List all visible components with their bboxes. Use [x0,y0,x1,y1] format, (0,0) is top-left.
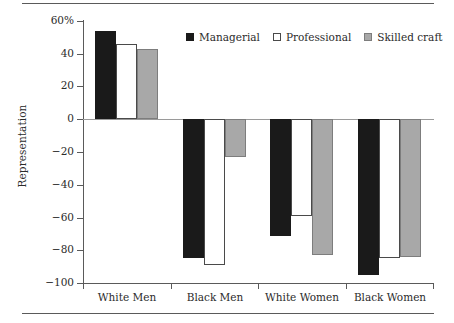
bar-managerial-black-men [183,119,204,258]
legend-label-professional: Professional [286,31,351,43]
bar-skilled-craft-black-women [400,119,421,257]
y-tick-label: 40 [14,48,74,59]
gray-square-icon [364,33,372,41]
white-square-icon [273,33,281,41]
x-tick-mark [83,283,84,289]
y-tick-label: 20 [14,80,74,91]
bar-managerial-white-women [270,119,291,235]
y-tick-label: −40 [14,179,74,190]
x-tick-mark [258,283,259,289]
legend-item-skilled-craft: Skilled craft [364,31,442,43]
y-tick-label: −100 [14,277,74,288]
y-tick-label: 0 [14,113,74,124]
bar-skilled-craft-black-men [225,119,246,157]
y-tick-label: −20 [14,146,74,157]
chart-legend: Managerial Professional Skilled craft [186,31,442,43]
y-tick-label: −60 [14,212,74,223]
legend-item-managerial: Managerial [186,31,260,43]
bar-professional-white-women [291,119,312,216]
bottom-divider [22,313,434,314]
top-divider [22,3,434,4]
x-tick-mark [346,283,347,289]
bar-professional-black-men [204,119,225,265]
bar-professional-white-men [116,44,137,119]
x-tick-mark [433,283,434,289]
legend-label-managerial: Managerial [199,31,260,43]
y-tick-label: −80 [14,244,74,255]
bar-professional-black-women [379,119,400,258]
x-tick-mark [171,283,172,289]
black-square-icon [186,33,194,41]
y-tick-label: 60% [14,15,74,26]
bar-skilled-craft-white-women [312,119,333,255]
legend-label-skilled-craft: Skilled craft [377,31,442,43]
plot-area [83,21,434,283]
legend-item-professional: Professional [273,31,351,43]
bar-managerial-white-men [95,31,116,119]
bar-managerial-black-women [358,119,379,275]
bar-skilled-craft-white-men [137,49,158,119]
x-category-label-black-women: Black Women [335,291,445,303]
